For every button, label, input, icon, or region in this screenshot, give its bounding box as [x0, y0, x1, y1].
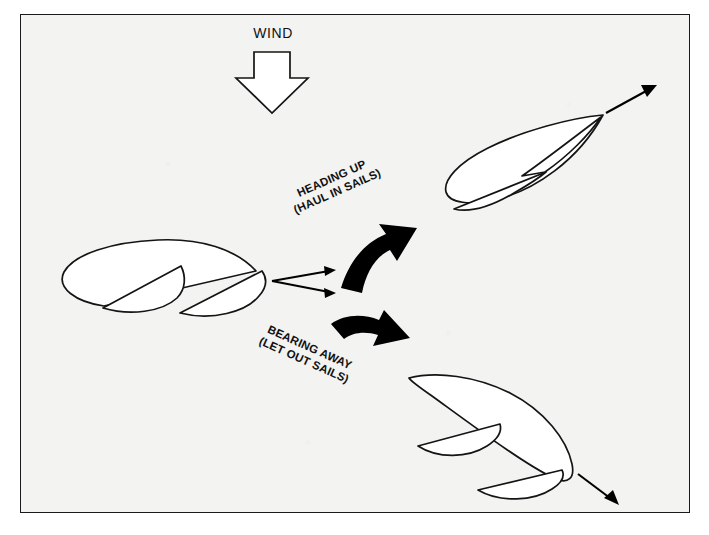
- boat-reaching-start: [62, 240, 265, 316]
- wind-label: WIND: [240, 25, 306, 42]
- boat-bearing-away: [409, 375, 573, 499]
- boat-heading-up: [446, 115, 603, 210]
- wind-arrow-down-icon: [236, 52, 308, 113]
- curved-arrow-heading-up: [341, 224, 417, 293]
- course-arrow-down: [272, 281, 336, 298]
- course-arrow-downwind: [578, 474, 619, 505]
- diagram-canvas: [0, 0, 709, 535]
- course-arrow-up: [272, 266, 336, 281]
- curved-arrow-bearing-away: [331, 310, 410, 346]
- sailing-diagram: WIND HEADING UP (HAUL IN SAILS) BEARING …: [0, 0, 709, 535]
- course-arrow-upwind: [606, 85, 657, 113]
